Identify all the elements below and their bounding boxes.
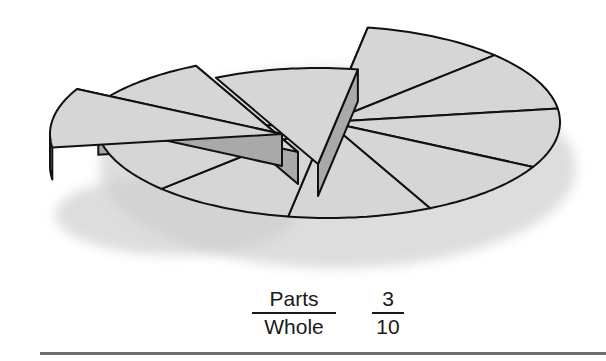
- fraction-words: Parts Whole: [252, 287, 336, 339]
- fraction-denominator-value: 10: [372, 314, 404, 339]
- exploded-pie-diagram: [0, 0, 606, 280]
- fraction-numerator-label: Parts: [252, 287, 336, 314]
- fraction-numerator-value: 3: [372, 287, 404, 314]
- fraction-denominator-label: Whole: [252, 314, 336, 339]
- fraction-numbers: 3 10: [372, 287, 404, 339]
- bottom-rule: [40, 352, 606, 355]
